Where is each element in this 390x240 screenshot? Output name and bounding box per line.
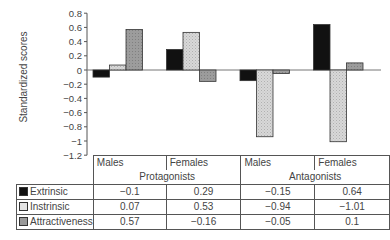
- cell: −0.15: [241, 185, 315, 200]
- y-tick-label: 0.6: [69, 22, 82, 33]
- table-header-row: Males Females Males Females: [17, 156, 390, 171]
- y-tick-label: −0.2: [63, 79, 82, 90]
- bar-instrinsic: [110, 65, 127, 70]
- bar-extrinsic: [240, 70, 257, 81]
- y-tick-label: −1: [71, 136, 82, 147]
- table-row: Attractiveness 0.57 −0.16 −0.05 0.1: [17, 215, 390, 230]
- col-header: Males: [241, 156, 315, 171]
- bar-extrinsic: [93, 70, 110, 77]
- y-tick-label: 0.8: [69, 8, 82, 19]
- y-tick-label: −0.8: [63, 121, 82, 132]
- bar-extrinsic: [314, 25, 331, 70]
- cell: −0.94: [241, 200, 315, 215]
- y-tick-label: −0.4: [63, 93, 82, 104]
- legend-instrinsic: Instrinsic: [17, 200, 94, 215]
- data-table: Males Females Males Females Protagonists…: [16, 155, 390, 230]
- col-header: Females: [166, 156, 241, 171]
- group-label-antagonists: Antagonists: [241, 170, 390, 185]
- y-tick-label: 0.2: [69, 50, 82, 61]
- cell: −0.1: [93, 185, 166, 200]
- swatch-icon: [19, 202, 28, 211]
- y-tick-label: −0.6: [63, 107, 82, 118]
- bar-instrinsic: [330, 70, 347, 142]
- bar-attractiveness: [347, 63, 364, 70]
- bar-instrinsic: [257, 70, 274, 137]
- row-label: Attractiveness: [30, 216, 93, 227]
- cell: −1.01: [315, 200, 390, 215]
- table-row: Extrinsic −0.1 0.29 −0.15 0.64: [17, 185, 390, 200]
- swatch-icon: [19, 217, 28, 226]
- cell: 0.57: [93, 215, 166, 230]
- cell: 0.64: [315, 185, 390, 200]
- table-group-row: Protagonists Antagonists: [17, 170, 390, 185]
- legend-extrinsic: Extrinsic: [17, 185, 94, 200]
- col-header: Females: [315, 156, 390, 171]
- y-tick-label: 0.4: [69, 36, 82, 47]
- row-label: Instrinsic: [30, 201, 69, 212]
- bar-instrinsic: [183, 32, 200, 70]
- bar-attractiveness: [200, 70, 217, 81]
- col-header: Males: [93, 156, 166, 171]
- cell: 0.07: [93, 200, 166, 215]
- bar-attractiveness: [273, 70, 290, 74]
- cell: −0.16: [166, 215, 241, 230]
- cell: 0.29: [166, 185, 241, 200]
- bars: [93, 25, 363, 142]
- cell: −0.05: [241, 215, 315, 230]
- group-label-protagonists: Protagonists: [93, 170, 241, 185]
- swatch-icon: [19, 187, 28, 196]
- y-tick-label: 0: [77, 65, 82, 76]
- cell: 0.1: [315, 215, 390, 230]
- cell: 0.53: [166, 200, 241, 215]
- bar-chart: 0.80.60.40.20−0.2−0.4−0.6−0.8−1−1.2: [0, 0, 390, 160]
- row-label: Extrinsic: [30, 186, 68, 197]
- legend-attractiveness: Attractiveness: [17, 215, 94, 230]
- table-row: Instrinsic 0.07 0.53 −0.94 −1.01: [17, 200, 390, 215]
- bar-extrinsic: [167, 49, 184, 70]
- bar-attractiveness: [126, 30, 143, 70]
